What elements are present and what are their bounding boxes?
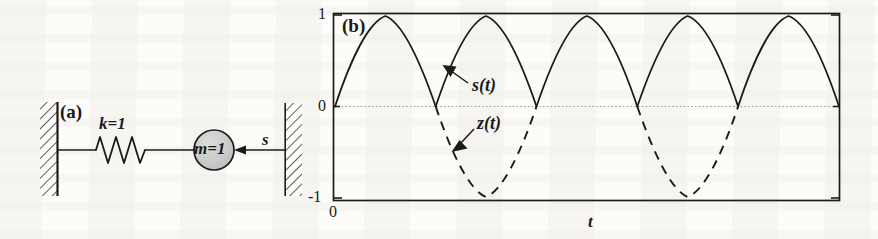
panel-a-mass-spring-diagram: (a) k=1 m=1 s [0, 0, 320, 239]
panel-b-tag: (b) [342, 16, 365, 35]
curve-label-z-of-t: z(t) [477, 114, 501, 132]
spring-coil [96, 137, 145, 163]
callout-arrow-s [443, 65, 469, 83]
curve-label-s-of-t: s(t) [472, 76, 496, 94]
callout-arrow-z [452, 129, 475, 152]
y-tick-label-1: 1 [318, 6, 326, 22]
panel-a-svg [0, 0, 320, 239]
panel-a-tag: (a) [60, 102, 82, 121]
x-axis-label-t: t [588, 213, 593, 230]
figure-root: (a) k=1 m=1 s [0, 0, 878, 239]
left-wall [40, 102, 58, 196]
panel-b-plot: (b) 1 0 -1 0 t s(t) z(t) [320, 0, 878, 239]
displacement-label-s: s [262, 131, 269, 148]
x-origin-label: 0 [329, 204, 337, 220]
right-wall [286, 103, 303, 196]
y-tick-label-0: 0 [318, 98, 326, 114]
curve-s-solid [335, 16, 839, 107]
y-tick-label-neg1: -1 [308, 189, 321, 205]
displacement-arrow-s [234, 145, 285, 154]
panel-b-svg [320, 0, 878, 239]
spring-constant-label: k=1 [99, 115, 126, 132]
mass-label: m=1 [194, 140, 225, 157]
